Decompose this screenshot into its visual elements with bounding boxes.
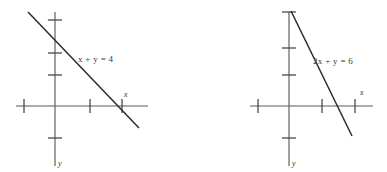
equation-label-right: 2x + y = 6 <box>313 56 353 66</box>
y-axis-label-left: y <box>57 159 62 168</box>
equation-label-left: x + y = 4 <box>78 54 114 64</box>
graph-right-svg: x y 2x + y = 6 <box>193 0 387 172</box>
graph-panel-left: x y x + y = 4 <box>0 0 194 172</box>
two-graph-figure: x y x + y = 4 x y <box>0 0 387 172</box>
x-axis-label-left: x <box>123 90 128 99</box>
graph-left-svg: x y x + y = 4 <box>0 0 194 172</box>
plot-line-right <box>291 11 352 136</box>
x-axis-label-right: x <box>359 88 364 97</box>
plot-line-left <box>28 12 139 128</box>
y-axis-label-right: y <box>291 159 296 168</box>
graph-panel-right: x y 2x + y = 6 <box>193 0 387 172</box>
